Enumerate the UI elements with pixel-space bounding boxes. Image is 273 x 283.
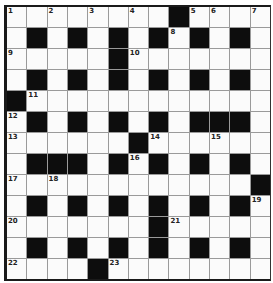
- answer-cell[interactable]: 22: [7, 259, 26, 279]
- answer-cell[interactable]: [230, 91, 249, 111]
- answer-cell[interactable]: [230, 7, 249, 27]
- answer-cell[interactable]: [210, 154, 229, 174]
- answer-cell[interactable]: 23: [109, 259, 128, 279]
- answer-cell[interactable]: [251, 49, 270, 69]
- answer-cell[interactable]: [251, 91, 270, 111]
- answer-cell[interactable]: [190, 49, 209, 69]
- answer-cell[interactable]: [149, 91, 168, 111]
- answer-cell[interactable]: [190, 91, 209, 111]
- answer-cell[interactable]: [48, 217, 67, 237]
- answer-cell[interactable]: [48, 28, 67, 48]
- answer-cell[interactable]: [230, 49, 249, 69]
- answer-cell[interactable]: [169, 175, 188, 195]
- answer-cell[interactable]: [169, 154, 188, 174]
- answer-cell[interactable]: [129, 175, 148, 195]
- answer-cell[interactable]: [48, 91, 67, 111]
- answer-cell[interactable]: 3: [88, 7, 107, 27]
- answer-cell[interactable]: [251, 217, 270, 237]
- answer-cell[interactable]: [129, 238, 148, 258]
- answer-cell[interactable]: [251, 70, 270, 90]
- answer-cell[interactable]: [149, 7, 168, 27]
- answer-cell[interactable]: [169, 112, 188, 132]
- answer-cell[interactable]: [68, 259, 87, 279]
- answer-cell[interactable]: [68, 175, 87, 195]
- answer-cell[interactable]: [169, 133, 188, 153]
- answer-cell[interactable]: [169, 259, 188, 279]
- answer-cell[interactable]: [169, 238, 188, 258]
- answer-cell[interactable]: [190, 259, 209, 279]
- answer-cell[interactable]: [251, 259, 270, 279]
- answer-cell[interactable]: [129, 112, 148, 132]
- answer-cell[interactable]: [48, 238, 67, 258]
- answer-cell[interactable]: [88, 70, 107, 90]
- answer-cell[interactable]: [230, 217, 249, 237]
- answer-cell[interactable]: 16: [129, 154, 148, 174]
- answer-cell[interactable]: [251, 28, 270, 48]
- answer-cell[interactable]: [68, 7, 87, 27]
- answer-cell[interactable]: [68, 91, 87, 111]
- answer-cell[interactable]: [129, 196, 148, 216]
- answer-cell[interactable]: [210, 175, 229, 195]
- answer-cell[interactable]: [48, 70, 67, 90]
- answer-cell[interactable]: [88, 28, 107, 48]
- answer-cell[interactable]: [210, 196, 229, 216]
- answer-cell[interactable]: [210, 217, 229, 237]
- answer-cell[interactable]: [27, 217, 46, 237]
- answer-cell[interactable]: 7: [251, 7, 270, 27]
- answer-cell[interactable]: [109, 7, 128, 27]
- answer-cell[interactable]: [27, 175, 46, 195]
- answer-cell[interactable]: [68, 217, 87, 237]
- answer-cell[interactable]: 10: [129, 49, 148, 69]
- answer-cell[interactable]: [169, 70, 188, 90]
- answer-cell[interactable]: [230, 133, 249, 153]
- answer-cell[interactable]: [48, 133, 67, 153]
- answer-cell[interactable]: [109, 91, 128, 111]
- answer-cell[interactable]: [88, 49, 107, 69]
- answer-cell[interactable]: [7, 238, 26, 258]
- answer-cell[interactable]: 9: [7, 49, 26, 69]
- answer-cell[interactable]: 8: [169, 28, 188, 48]
- answer-cell[interactable]: 17: [7, 175, 26, 195]
- answer-cell[interactable]: [230, 175, 249, 195]
- answer-cell[interactable]: [88, 175, 107, 195]
- answer-cell[interactable]: [109, 217, 128, 237]
- answer-cell[interactable]: [190, 175, 209, 195]
- answer-cell[interactable]: [109, 133, 128, 153]
- answer-cell[interactable]: 5: [190, 7, 209, 27]
- answer-cell[interactable]: [48, 112, 67, 132]
- answer-cell[interactable]: 21: [169, 217, 188, 237]
- answer-cell[interactable]: [210, 28, 229, 48]
- answer-cell[interactable]: [68, 133, 87, 153]
- answer-cell[interactable]: 18: [48, 175, 67, 195]
- answer-cell[interactable]: [149, 49, 168, 69]
- answer-cell[interactable]: [109, 175, 128, 195]
- answer-cell[interactable]: [149, 175, 168, 195]
- answer-cell[interactable]: [88, 112, 107, 132]
- answer-cell[interactable]: [27, 133, 46, 153]
- answer-cell[interactable]: [129, 28, 148, 48]
- answer-cell[interactable]: 2: [48, 7, 67, 27]
- answer-cell[interactable]: [68, 49, 87, 69]
- answer-cell[interactable]: [88, 91, 107, 111]
- answer-cell[interactable]: [251, 154, 270, 174]
- answer-cell[interactable]: [251, 133, 270, 153]
- answer-cell[interactable]: [7, 70, 26, 90]
- answer-cell[interactable]: [88, 238, 107, 258]
- answer-cell[interactable]: [190, 217, 209, 237]
- answer-cell[interactable]: 13: [7, 133, 26, 153]
- answer-cell[interactable]: 20: [7, 217, 26, 237]
- answer-cell[interactable]: [210, 238, 229, 258]
- answer-cell[interactable]: [48, 259, 67, 279]
- answer-cell[interactable]: 1: [7, 7, 26, 27]
- answer-cell[interactable]: [27, 7, 46, 27]
- answer-cell[interactable]: 12: [7, 112, 26, 132]
- answer-cell[interactable]: 19: [251, 196, 270, 216]
- answer-cell[interactable]: 6: [210, 7, 229, 27]
- answer-cell[interactable]: 11: [27, 91, 46, 111]
- answer-cell[interactable]: [88, 196, 107, 216]
- answer-cell[interactable]: [88, 133, 107, 153]
- answer-cell[interactable]: [88, 217, 107, 237]
- answer-cell[interactable]: [7, 196, 26, 216]
- answer-cell[interactable]: [129, 91, 148, 111]
- answer-cell[interactable]: [88, 154, 107, 174]
